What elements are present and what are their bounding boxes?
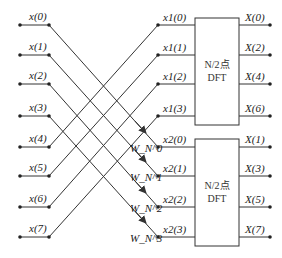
output-label: X(0) [244, 11, 265, 24]
x1-label: x1(3) [162, 102, 187, 115]
twiddle-label: W_N^3 [130, 232, 163, 244]
x2-label: x2(3) [162, 223, 187, 236]
output-label: X(1) [244, 133, 265, 146]
input-label: x(2) [28, 69, 47, 82]
upper-block-title: N/2点 [205, 59, 230, 70]
output-label: X(3) [244, 162, 265, 175]
twiddle-label: W_N^2 [130, 202, 163, 214]
input-label: x(6) [28, 192, 47, 205]
output-label: X(6) [244, 102, 265, 115]
upper-block-dft: DFT [208, 72, 227, 83]
x1-label: x1(0) [162, 11, 187, 24]
input-label: x(5) [28, 161, 47, 174]
input-label: x(1) [28, 40, 47, 53]
x1-label: x1(2) [162, 70, 187, 83]
twiddle-label: W_N^0 [130, 142, 163, 154]
input-label: x(7) [28, 222, 47, 235]
x2-label: x2(0) [162, 133, 187, 146]
lower-block-dft: DFT [208, 193, 227, 204]
output-label: X(5) [244, 193, 265, 206]
lower-block-title: N/2点 [205, 180, 230, 191]
fft-butterfly-diagram: x(0) x(1) x(2) x(3) x(4) x(5) x(6) x(7) … [0, 0, 282, 258]
input-label: x(0) [28, 10, 47, 23]
x2-label: x2(1) [162, 162, 187, 175]
output-label: X(7) [244, 223, 265, 236]
x2-label: x2(2) [162, 193, 187, 206]
twiddle-label: W_N^1 [130, 171, 162, 183]
x1-label: x1(1) [162, 41, 187, 54]
input-label: x(4) [28, 132, 47, 145]
output-label: X(2) [244, 41, 265, 54]
input-label: x(3) [28, 101, 47, 114]
output-label: X(4) [244, 70, 265, 83]
